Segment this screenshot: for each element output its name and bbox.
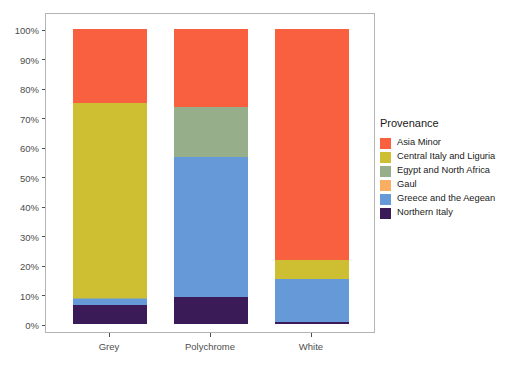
legend-swatch-icon [380, 166, 391, 177]
y-axis-tick-label: 90% [20, 55, 39, 65]
legend-item-label: Northern Italy [397, 208, 453, 217]
bars-layer [46, 14, 374, 332]
bar-segment[interactable] [174, 107, 248, 157]
legend-item-label: Asia Minor [397, 138, 441, 147]
bar-segment[interactable] [73, 305, 147, 324]
legend-item-label: Egypt and North Africa [397, 166, 490, 175]
bar-segment[interactable] [174, 29, 248, 107]
y-axis-tick-label: 50% [20, 173, 39, 183]
y-axis-tick-label: 20% [20, 262, 39, 272]
legend-swatch-icon [380, 208, 391, 219]
legend-item-label: Greece and the Aegean [397, 194, 495, 203]
y-axis-tick-label: 60% [20, 144, 39, 154]
bar-grey[interactable] [73, 29, 147, 324]
x-axis: Grey Polychrome White [45, 333, 375, 357]
y-axis-tick-label: 10% [20, 291, 39, 301]
x-axis-tick-grey: Grey [72, 333, 146, 351]
y-axis-tick-label: 80% [20, 85, 39, 95]
legend-item-gaul[interactable]: Gaul [380, 178, 513, 192]
legend-item-northern-italy[interactable]: Northern Italy [380, 206, 513, 220]
x-axis-tick-mark [311, 333, 312, 337]
bar-segment[interactable] [174, 297, 248, 324]
legend-swatch-icon [380, 194, 391, 205]
bar-polychrome[interactable] [174, 29, 248, 324]
legend-swatch-icon [380, 138, 391, 149]
y-axis-tick-label: 30% [20, 232, 39, 242]
bar-segment[interactable] [275, 260, 349, 279]
x-axis-tick-label: White [274, 342, 348, 352]
legend-swatch-icon [380, 180, 391, 191]
x-axis-tick-mark [109, 333, 110, 337]
y-axis-tick-label: 100% [15, 26, 39, 36]
y-axis: 100% 90% 80% 70% 60% 50% 40% 30% [0, 13, 45, 333]
legend-item-central-italy-and-liguria[interactable]: Central Italy and Liguria [380, 150, 513, 164]
y-axis-tick-label: 70% [20, 114, 39, 124]
legend-item-greece-and-the-aegean[interactable]: Greece and the Aegean [380, 192, 513, 206]
y-axis-tick-label: 0% [25, 321, 39, 331]
plot-panel [45, 13, 375, 333]
x-axis-tick-label: Grey [72, 342, 146, 352]
legend-items: Asia Minor Central Italy and Liguria Egy… [380, 136, 513, 220]
bar-segment[interactable] [275, 29, 349, 260]
bar-segment[interactable] [73, 29, 147, 103]
bar-segment[interactable] [73, 103, 147, 298]
legend: Provenance Asia Minor Central Italy and … [380, 118, 513, 220]
legend-item-label: Central Italy and Liguria [397, 152, 495, 161]
x-axis-tick-white: White [274, 333, 348, 351]
bar-white[interactable] [275, 29, 349, 324]
bar-segment[interactable] [275, 322, 349, 324]
bar-segment[interactable] [275, 279, 349, 322]
legend-item-label: Gaul [397, 180, 417, 189]
stacked-bar-chart: 100% 90% 80% 70% 60% 50% 40% 30% [0, 0, 515, 378]
legend-swatch-icon [380, 152, 391, 163]
x-axis-tick-mark [210, 333, 211, 337]
legend-item-asia-minor[interactable]: Asia Minor [380, 136, 513, 150]
legend-item-egypt-and-north-africa[interactable]: Egypt and North Africa [380, 164, 513, 178]
legend-title: Provenance [380, 118, 513, 129]
x-axis-tick-label: Polychrome [173, 342, 247, 352]
bar-segment[interactable] [174, 157, 248, 297]
y-axis-tick-label: 40% [20, 203, 39, 213]
x-axis-tick-polychrome: Polychrome [173, 333, 247, 351]
